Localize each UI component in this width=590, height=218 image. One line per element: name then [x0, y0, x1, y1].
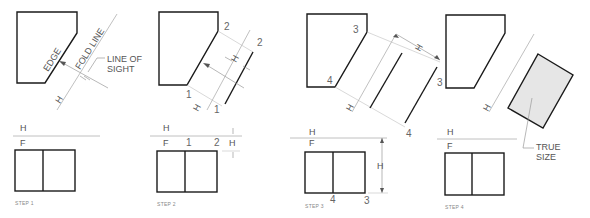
- step2-point-2-aux: 2: [257, 37, 263, 48]
- step3-proj-3: [367, 32, 440, 62]
- step3-label: STEP 3: [305, 203, 324, 209]
- step3-dim-arrow-b: [434, 55, 440, 60]
- step3-fv-f-label: F: [309, 138, 315, 148]
- step3-front-view-rect: [305, 152, 365, 193]
- step1-arrowhead: [59, 61, 66, 66]
- step4-fv-h-label: H: [447, 127, 454, 137]
- step2-label: STEP 2: [157, 201, 176, 207]
- step2-arrowhead: [203, 63, 210, 68]
- step2-proj-1: [187, 85, 222, 106]
- step4-front-view-rect: [445, 153, 504, 195]
- auxiliary-view-diagram: EDGE FOLD LINE LINE OF SIGHT H H F STEP …: [0, 0, 590, 218]
- step-2: 2 2 H 1 1 H H F 1 2 H STEP 2: [150, 12, 263, 207]
- step3-point-4-top: 4: [327, 75, 333, 86]
- step-1: EDGE FOLD LINE LINE OF SIGHT H H F STEP …: [13, 12, 143, 206]
- step4-true-size-label-l1: TRUE: [536, 142, 561, 152]
- step2-front-view-rect: [157, 151, 217, 192]
- step2-fv-h-label: H: [163, 123, 170, 133]
- step3-fv-point-3: 3: [364, 195, 370, 206]
- step4-true-size-shape: [508, 54, 573, 128]
- step3-fv-h-label: H: [309, 127, 316, 137]
- step1-los-label-l1: LINE OF: [107, 54, 143, 64]
- step3-h-label-bot: H: [344, 102, 356, 113]
- step4-top-view-shape: [446, 15, 505, 88]
- step3-point-4-aux: 4: [406, 128, 412, 139]
- step2-fv-h-dim: H: [229, 138, 236, 148]
- step1-fv-h-label: H: [20, 123, 27, 133]
- step1-los-label-l2: SIGHT: [107, 64, 135, 74]
- step4-fv-f-label: F: [447, 141, 453, 151]
- step3-fv-point-4: 4: [330, 194, 336, 205]
- step2-point-2-top: 2: [224, 21, 230, 32]
- step1-h-label: H: [53, 94, 65, 105]
- step3-fv-dim-arrow-top: [380, 138, 384, 143]
- step2-point-1-aux: 1: [214, 104, 220, 115]
- step1-fold-line-label: FOLD LINE: [73, 26, 106, 71]
- step-4: H TRUE SIZE H F STEP 4: [437, 15, 573, 210]
- step3-point-3-top: 3: [353, 24, 359, 35]
- step-3: 3 H 3 4 H 4 H F H 4 3 STEP 3: [290, 14, 443, 209]
- step1-los-leader: [88, 58, 105, 72]
- step3-fv-dim-arrow-bot: [380, 188, 384, 193]
- step2-top-view-shape: [159, 12, 218, 85]
- step3-fv-h-dim: H: [377, 161, 384, 171]
- step2-h-label-2: H: [191, 102, 203, 113]
- step3-point-3-aux: 3: [437, 77, 443, 88]
- step2-fv-point-2: 2: [214, 137, 220, 148]
- step3-aux-edge-34: [405, 67, 437, 123]
- step4-label: STEP 4: [445, 204, 464, 210]
- step1-fv-f-label: F: [20, 138, 26, 148]
- step3-aux-edge-12: [370, 53, 402, 108]
- step2-fv-point-1: 1: [186, 137, 192, 148]
- step4-true-size-label-l2: SIZE: [536, 152, 556, 162]
- step1-front-view-rect: [15, 150, 75, 191]
- step2-point-1-top: 1: [186, 89, 192, 100]
- step2-fv-f-label: F: [163, 138, 169, 148]
- step2-line-of-sight-arrow: [205, 64, 244, 88]
- step1-label: STEP 1: [15, 200, 34, 206]
- step4-h-label: H: [481, 102, 493, 113]
- step2-h-label: H: [229, 53, 241, 64]
